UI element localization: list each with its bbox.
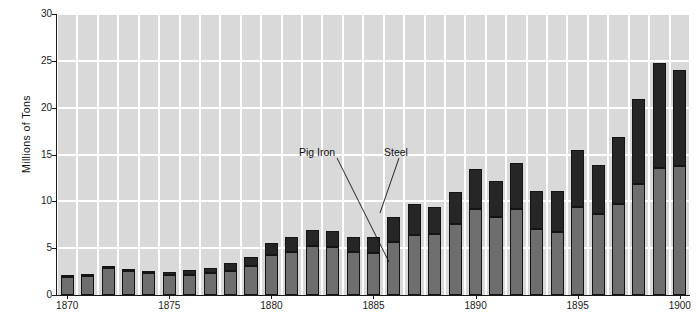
gridline-vertical (342, 14, 344, 295)
gridline-vertical (526, 14, 528, 295)
bar-segment-steel (183, 270, 196, 276)
y-tick-label: 20 (0, 103, 52, 113)
bar-segment-pig-iron (367, 253, 380, 295)
gridline-vertical (281, 14, 283, 295)
bar-1872[interactable] (102, 266, 115, 295)
bar-segment-pig-iron (653, 168, 666, 295)
bar-1891[interactable] (489, 181, 502, 295)
bar-1878[interactable] (224, 263, 237, 295)
bar-1875[interactable] (163, 272, 176, 295)
bar-segment-steel (163, 272, 176, 276)
gridline-vertical (607, 14, 609, 295)
bar-segment-pig-iron (204, 273, 217, 295)
bar-segment-steel (102, 266, 115, 268)
plot-area (57, 14, 690, 295)
bar-segment-pig-iron (183, 275, 196, 295)
bar-1898[interactable] (632, 99, 645, 295)
bar-1892[interactable] (510, 163, 523, 295)
bar-1876[interactable] (183, 270, 196, 295)
y-tick-label: 25 (0, 56, 52, 66)
bar-segment-steel (367, 237, 380, 253)
x-tick-mark (373, 295, 374, 299)
bar-segment-pig-iron (224, 271, 237, 295)
bar-1888[interactable] (428, 207, 441, 295)
gridline-vertical (464, 14, 466, 295)
bar-segment-pig-iron (449, 224, 462, 295)
x-tick-mark (680, 295, 681, 299)
gridline-vertical (648, 14, 650, 295)
y-tick-label: 15 (0, 150, 52, 160)
bar-segment-steel (61, 275, 74, 277)
bar-segment-steel (469, 169, 482, 209)
bar-segment-steel (673, 70, 686, 166)
bar-1889[interactable] (449, 192, 462, 295)
bar-1893[interactable] (530, 191, 543, 295)
bar-1887[interactable] (408, 204, 421, 295)
y-tick-mark (52, 295, 56, 296)
x-tick-label: 1890 (446, 300, 506, 311)
bar-1899[interactable] (653, 63, 666, 295)
gridline-horizontal (57, 60, 690, 62)
bar-segment-pig-iron (489, 217, 502, 295)
bar-segment-steel (530, 191, 543, 228)
bar-segment-steel (510, 163, 523, 209)
bar-segment-steel (592, 165, 605, 215)
bar-1882[interactable] (306, 230, 319, 295)
bar-1870[interactable] (61, 276, 74, 295)
gridline-horizontal (57, 107, 690, 109)
gridline-vertical (240, 14, 242, 295)
gridline-vertical (138, 14, 140, 295)
bar-1897[interactable] (612, 137, 625, 295)
bar-1871[interactable] (81, 274, 94, 295)
y-tick-label: 30 (0, 9, 52, 19)
bar-segment-steel (81, 274, 94, 276)
bar-segment-pig-iron (142, 273, 155, 295)
bar-segment-steel (347, 237, 360, 252)
gridline-vertical (158, 14, 160, 295)
bar-segment-pig-iron (285, 252, 298, 295)
x-tick-mark (169, 295, 170, 299)
bar-segment-pig-iron (244, 266, 257, 295)
gridline-vertical (546, 14, 548, 295)
bar-1883[interactable] (326, 231, 339, 295)
gridline-vertical (57, 14, 58, 295)
bar-1879[interactable] (244, 257, 257, 295)
x-tick-label: 1900 (650, 300, 696, 311)
y-tick-label: 5 (0, 243, 52, 253)
bar-1881[interactable] (285, 237, 298, 295)
bar-segment-steel (244, 257, 257, 266)
bar-segment-pig-iron (387, 242, 400, 295)
bar-segment-pig-iron (102, 268, 115, 295)
bar-1895[interactable] (571, 150, 584, 295)
x-tick-mark (67, 295, 68, 299)
bar-1900[interactable] (673, 70, 686, 295)
bar-segment-pig-iron (551, 232, 564, 295)
bar-segment-steel (204, 268, 217, 274)
bar-segment-pig-iron (428, 234, 441, 295)
x-tick-label: 1895 (548, 300, 608, 311)
annotation-label-pig-iron: Pig Iron (299, 146, 335, 158)
bar-1886[interactable] (387, 217, 400, 295)
bar-segment-pig-iron (61, 277, 74, 295)
y-axis-title: Millions of Tons (20, 74, 32, 194)
bar-1880[interactable] (265, 243, 278, 295)
bar-1884[interactable] (347, 237, 360, 295)
bar-segment-pig-iron (122, 271, 135, 295)
bar-1874[interactable] (142, 271, 155, 295)
gridline-vertical (219, 14, 221, 295)
bar-1894[interactable] (551, 191, 564, 295)
gridline-vertical (76, 14, 78, 295)
gridline-vertical (199, 14, 201, 295)
bar-1873[interactable] (122, 269, 135, 295)
gridline-vertical (117, 14, 119, 295)
bar-1885[interactable] (367, 237, 380, 295)
bar-segment-steel (449, 192, 462, 224)
bar-segment-pig-iron (163, 275, 176, 295)
bar-segment-pig-iron (510, 209, 523, 295)
bar-1877[interactable] (204, 268, 217, 295)
gridline-vertical (179, 14, 181, 295)
x-tick-mark (578, 295, 579, 299)
bar-1890[interactable] (469, 169, 482, 295)
bar-1896[interactable] (592, 165, 605, 295)
x-tick-label: 1875 (139, 300, 199, 311)
